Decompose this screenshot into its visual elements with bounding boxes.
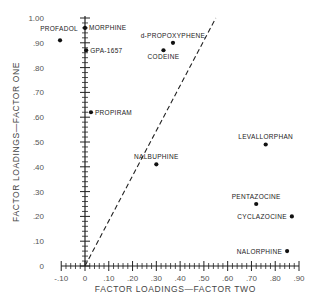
x-tick-label: .90	[293, 274, 305, 283]
data-point	[58, 38, 62, 42]
data-point	[285, 249, 289, 253]
data-point	[83, 26, 87, 30]
point-label: d-PROPOXYPHENE	[141, 32, 206, 39]
data-point	[290, 214, 294, 218]
y-tick-label: 0	[40, 262, 45, 271]
point-label: GPA-1657	[90, 47, 122, 54]
y-tick-label: .70	[33, 88, 45, 97]
data-point	[154, 162, 158, 166]
x-tick-label: .70	[246, 274, 258, 283]
y-tick-label: .60	[33, 113, 45, 122]
y-tick-label: .20	[33, 212, 45, 221]
points-group: PROFADOLMORPHINEGPA-1657PROPIRAMd-PROPOX…	[40, 24, 294, 254]
data-point	[171, 41, 175, 45]
data-point	[89, 110, 93, 114]
x-tick-label: .40	[175, 274, 187, 283]
point-label: MORPHINE	[89, 24, 127, 31]
x-tick-label: -.10	[54, 274, 68, 283]
y-tick-label: .10	[33, 237, 45, 246]
x-tick-label: .50	[198, 274, 210, 283]
data-point	[264, 142, 268, 146]
x-axis-title: FACTOR LOADINGS—FACTOR TWO	[95, 284, 256, 294]
x-tick-label: .20	[127, 274, 139, 283]
x-tick-label: .60	[222, 274, 234, 283]
y-tick-label: 1.00	[28, 14, 44, 23]
point-label: PROPIRAM	[95, 109, 132, 116]
point-label: NALBUPHINE	[134, 153, 179, 160]
y-tick-label: .30	[33, 188, 45, 197]
scatter-chart: -.100.10.20.30.40.50.60.70.80.900.10.20.…	[0, 0, 318, 303]
point-label: PROFADOL	[40, 25, 78, 32]
y-tick-label: .40	[33, 163, 45, 172]
data-point	[84, 48, 88, 52]
point-label: PENTAZOCINE	[232, 193, 281, 200]
y-tick-label: .80	[33, 64, 45, 73]
x-tick-label: 0	[83, 274, 88, 283]
y-tick-label: .50	[33, 138, 45, 147]
y-axis-title: FACTOR LOADINGS—FACTOR ONE	[11, 62, 21, 222]
point-label: CYCLAZOCINE	[237, 213, 287, 220]
point-label: CODEINE	[148, 53, 180, 60]
y-tick-label: .90	[33, 39, 45, 48]
data-point	[161, 48, 165, 52]
data-point	[254, 202, 258, 206]
x-tick-label: .10	[103, 274, 115, 283]
point-label: LEVALLORPHAN	[238, 133, 293, 140]
point-label: NALORPHINE	[237, 248, 283, 255]
x-tick-label: .30	[151, 274, 163, 283]
x-tick-label: .80	[270, 274, 282, 283]
